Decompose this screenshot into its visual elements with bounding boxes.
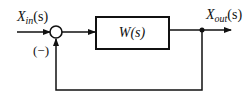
feedback-sign: (−) — [33, 43, 49, 58]
feedback-diagram: Xin(s) (−) W(s) Xout(s) — [0, 0, 246, 99]
input-label: Xin(s) — [16, 9, 48, 26]
block-label: W(s) — [119, 25, 146, 41]
summing-junction — [50, 26, 62, 38]
output-label: Xout(s) — [205, 7, 242, 24]
